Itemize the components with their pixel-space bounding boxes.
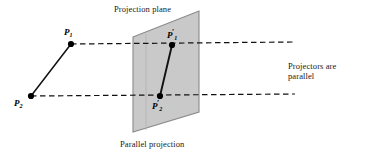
object-segment (31, 44, 71, 96)
label-p1-prime: P′1 (167, 29, 177, 41)
parallel-projection-caption: Parallel projection (120, 139, 184, 149)
label-p1-prime-subscript: 1 (174, 35, 177, 41)
label-p2-subscript: 2 (20, 103, 23, 109)
label-p2: P2 (14, 99, 23, 109)
label-p2-prime: P′2 (152, 100, 162, 112)
projectors-caption-line-1: Projectors are (288, 61, 336, 71)
label-p1: P1 (64, 28, 73, 38)
projectors-are-parallel-caption: Projectors are parallel (288, 61, 336, 82)
parallel-projection-figure: Projection plane Parallel projection Pro… (0, 0, 372, 160)
label-p1-subscript: 1 (70, 32, 73, 38)
projectors-caption-line-2: parallel (288, 71, 336, 81)
projection-plane-caption: Projection plane (114, 4, 171, 14)
point-p2 (28, 93, 34, 99)
point-p1-prime (169, 42, 175, 48)
label-p2-prime-subscript: 2 (159, 106, 162, 112)
point-p1 (68, 41, 74, 47)
